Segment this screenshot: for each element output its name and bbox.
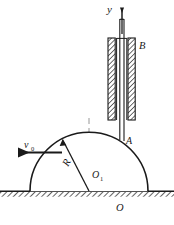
- label-velocity: v: [24, 139, 29, 150]
- label-point-o1: O: [92, 169, 99, 180]
- label-y-axis: y: [106, 3, 112, 15]
- label-velocity-subscript: 0: [31, 145, 34, 152]
- label-point-b: B: [139, 40, 146, 51]
- label-point-o: O: [116, 202, 124, 213]
- ground: [0, 191, 174, 197]
- label-point-o1-subscript: 1: [100, 175, 103, 182]
- guide-bar-right: [128, 38, 135, 120]
- mechanics-diagram: y B A O O 1 R v 0: [0, 0, 174, 225]
- label-point-a: A: [125, 135, 133, 146]
- diagram-canvas: y B A O O 1 R v 0: [0, 0, 174, 225]
- rod: [120, 19, 124, 141]
- guide-bar-left: [108, 38, 115, 120]
- ground-hatching: [0, 192, 174, 197]
